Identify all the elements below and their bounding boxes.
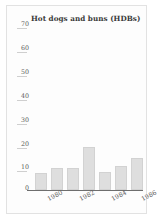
chart-figure: Hot dogs and buns (HDBs) 70 60 50 40 30 … (6, 5, 147, 214)
y-axis-tick-mark (17, 52, 27, 53)
bar-1984[interactable] (115, 166, 127, 190)
bar-1985[interactable] (131, 158, 143, 190)
plot-area: Hot dogs and buns (HDBs) 70 60 50 40 30 … (7, 6, 148, 215)
y-axis-tick-mark (17, 28, 27, 29)
bar-1979[interactable] (35, 173, 47, 190)
bar-1982[interactable] (83, 147, 95, 190)
bar-1983[interactable] (99, 172, 111, 190)
y-axis-tick-mark (17, 124, 27, 125)
y-axis-tick-mark (17, 148, 27, 149)
bar-1981[interactable] (67, 168, 79, 191)
y-axis-tick-mark (17, 171, 27, 172)
y-axis-tick-mark (17, 76, 27, 77)
bar-1980[interactable] (51, 168, 63, 191)
y-axis-spine (27, 20, 28, 190)
chart-title: Hot dogs and buns (HDBs) (31, 14, 140, 23)
y-axis-tick-mark (17, 100, 27, 101)
